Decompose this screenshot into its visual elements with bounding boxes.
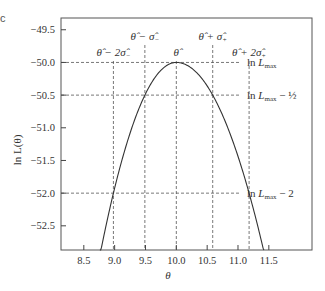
vertical-marker-label: θ̂ − 2σ̂−: [96, 46, 130, 60]
y-tick-label: −50.5: [31, 90, 55, 101]
vertical-marker-label: θ̂: [174, 46, 184, 58]
x-axis-title: θ: [165, 269, 171, 281]
vertical-marker-label: θ̂ + σ̂+: [198, 30, 227, 44]
y-tick-label: −49.5: [31, 24, 55, 35]
y-axis-title: ln L(θ): [11, 134, 24, 165]
y-tick-label: −52.5: [31, 220, 55, 231]
x-tick-label: 9.5: [139, 255, 152, 266]
x-tick-label: 10.0: [167, 255, 185, 266]
likelihood-chart: c ln Lmaxln Lmax − ½ln Lmax − 2 θ̂ − 2σ̂…: [0, 0, 325, 291]
x-tick-label: 11.0: [229, 255, 247, 266]
x-tick-label: 11.5: [260, 255, 278, 266]
panel-label: c: [0, 12, 6, 24]
x-tick-label: 10.5: [198, 255, 216, 266]
vertical-marker-label: θ̂ + 2σ̂+: [232, 46, 266, 60]
likelihood-curve-group: [100, 62, 264, 250]
horizontal-markers: ln Lmaxln Lmax − ½ln Lmax − 2: [61, 56, 296, 201]
vertical-marker-label: θ̂ − σ̂−: [131, 30, 160, 44]
horizontal-marker-label: ln Lmax − ½: [247, 89, 296, 103]
y-tick-label: −50.0: [31, 57, 55, 68]
x-tick-label: 9.0: [108, 255, 121, 266]
horizontal-marker-label: ln Lmax − 2: [247, 187, 294, 201]
likelihood-curve: [100, 62, 264, 250]
x-axis: 8.59.09.510.010.511.011.5: [77, 245, 278, 266]
y-tick-label: −51.5: [31, 155, 55, 166]
y-tick-label: −51.0: [31, 122, 55, 133]
x-tick-label: 8.5: [77, 255, 90, 266]
y-tick-label: −52.0: [31, 188, 55, 199]
